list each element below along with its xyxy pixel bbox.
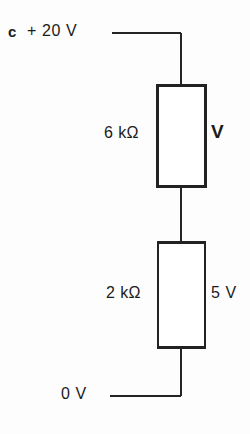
ground-voltage-label: 0 V — [61, 386, 87, 402]
resistor-lower-value-label: 2 kΩ — [106, 285, 141, 301]
circuit-diagram-canvas: c + 20 V 6 kΩ V 2 kΩ 5 V 0 V — [0, 0, 250, 434]
resistor-upper-body — [158, 86, 206, 187]
resistor-lower-voltage-label: 5 V — [211, 285, 237, 301]
resistor-upper-value-label: 6 kΩ — [104, 125, 139, 141]
resistor-lower-body — [158, 243, 205, 348]
supply-voltage-label: + 20 V — [27, 23, 77, 39]
node-label-c: c — [8, 24, 17, 39]
resistor-upper-voltage-label: V — [211, 122, 224, 141]
circuit-schematic-svg — [0, 0, 250, 434]
